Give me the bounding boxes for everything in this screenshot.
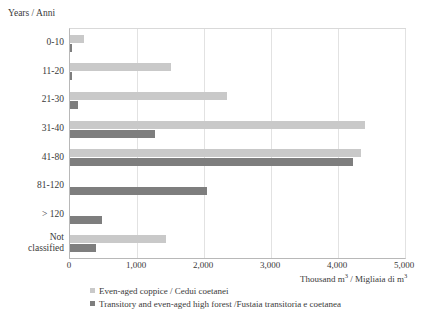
bar-group — [70, 201, 405, 230]
y-axis-tick-label: > 120 — [0, 209, 64, 220]
legend-label: Transitory and even-aged high forest /Fu… — [99, 299, 341, 309]
y-axis-tick-label: 21-30 — [0, 94, 64, 105]
bar-group — [70, 58, 405, 87]
y-axis-tick-label: 81-120 — [0, 180, 64, 191]
bar-group — [70, 172, 405, 201]
x-axis-tick-label: 0 — [67, 260, 72, 270]
bar — [70, 63, 171, 71]
x-axis-tick-label: 5,000 — [394, 260, 414, 270]
x-axis-title: Thousand m3 / Migliaia di m3 — [300, 272, 407, 284]
y-axis-tick-label: 11-20 — [0, 66, 64, 77]
bar-group — [70, 29, 405, 58]
bar-group — [70, 115, 405, 144]
legend-label: Even-aged coppice / Cedui coetanei — [99, 286, 228, 296]
bar-rows — [70, 29, 405, 258]
x-axis-tick-label: 4,000 — [327, 260, 347, 270]
bar — [70, 92, 227, 100]
bar — [70, 216, 102, 224]
y-axis-tick-label: 0-10 — [0, 37, 64, 48]
bar-chart: Years / Anni 0-1011-2021-3031-4041-8081-… — [0, 0, 434, 316]
x-axis-title-superscript-2: 3 — [404, 272, 407, 279]
bar-group — [70, 229, 405, 258]
x-axis-title-prefix: Thousand m — [300, 274, 345, 284]
y-axis-tick-label: 41-80 — [0, 152, 64, 163]
bar-group — [70, 86, 405, 115]
legend-swatch-icon — [90, 288, 95, 293]
legend: Even-aged coppice / Cedui coetaneiTransi… — [90, 284, 434, 310]
y-axis-title: Years / Anni — [8, 8, 55, 18]
gridline — [405, 29, 406, 258]
legend-swatch-icon — [90, 301, 95, 306]
x-axis-tick-label: 2,000 — [193, 260, 213, 270]
bar — [70, 235, 166, 243]
bar — [70, 244, 96, 252]
bar — [70, 35, 84, 43]
y-axis-tick-label: 31-40 — [0, 123, 64, 134]
y-axis-tick-label: Notclassified — [0, 232, 64, 253]
bar — [70, 149, 361, 157]
y-axis-tick-labels: 0-1011-2021-3031-4041-8081-120> 120Notcl… — [0, 28, 64, 257]
bar — [70, 187, 207, 195]
plot-area — [69, 28, 406, 259]
x-axis-tick-label: 3,000 — [260, 260, 280, 270]
bar — [70, 158, 353, 166]
bar — [70, 101, 78, 109]
x-axis-tick-label: 1,000 — [126, 260, 146, 270]
bar — [70, 44, 72, 52]
bar — [70, 72, 72, 80]
x-axis-title-mid: / Migliaia di m — [348, 274, 404, 284]
bar-group — [70, 144, 405, 173]
bar — [70, 130, 155, 138]
legend-item[interactable]: Even-aged coppice / Cedui coetanei — [90, 284, 434, 297]
bar — [70, 121, 365, 129]
legend-item[interactable]: Transitory and even-aged high forest /Fu… — [90, 297, 434, 310]
